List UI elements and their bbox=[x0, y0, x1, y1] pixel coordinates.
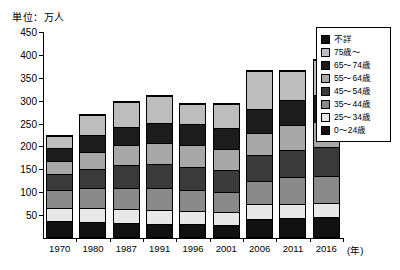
bar-segment bbox=[80, 209, 105, 224]
legend-item[interactable]: 55〜64歳 bbox=[321, 72, 387, 84]
bar-segment bbox=[214, 213, 239, 226]
stacked-bar-chart: 単位：万人 50100150200250300350400450 1970198… bbox=[0, 0, 400, 270]
x-tick bbox=[243, 238, 244, 242]
stacked-bar[interactable] bbox=[46, 135, 73, 238]
y-tick-label: 450 bbox=[20, 27, 37, 38]
x-axis-label: 2006 bbox=[243, 243, 276, 254]
stacked-bar[interactable] bbox=[213, 103, 240, 238]
legend-label: 0〜24歳 bbox=[334, 126, 366, 135]
bar-segment bbox=[147, 144, 172, 165]
y-tick-label: 300 bbox=[20, 95, 37, 106]
legend-swatch-icon bbox=[321, 87, 330, 96]
legend-label: 35〜44歳 bbox=[334, 100, 371, 109]
bar-segment bbox=[280, 126, 305, 151]
y-tick-label: 150 bbox=[20, 164, 37, 175]
bar-segment bbox=[280, 72, 305, 100]
bar-segment bbox=[114, 103, 139, 128]
bar-segment bbox=[147, 211, 172, 225]
bar-segment bbox=[214, 171, 239, 193]
bar-segment bbox=[47, 137, 72, 149]
legend-swatch-icon bbox=[321, 35, 330, 44]
legend-swatch-icon bbox=[321, 61, 330, 70]
bar-segment bbox=[280, 151, 305, 178]
legend-label: 25〜34歳 bbox=[334, 113, 371, 122]
x-tick bbox=[76, 238, 77, 242]
bar-segment bbox=[80, 189, 105, 208]
bar-column[interactable] bbox=[43, 32, 76, 238]
bar-column[interactable] bbox=[276, 32, 309, 238]
bar-segment bbox=[280, 219, 305, 237]
bar-segment bbox=[147, 124, 172, 144]
y-tick-label: 350 bbox=[20, 72, 37, 83]
legend-label: 不詳 bbox=[334, 35, 352, 44]
bar-segment bbox=[114, 166, 139, 189]
legend-item[interactable]: 45〜54歳 bbox=[321, 85, 387, 97]
legend-label: 45〜54歳 bbox=[334, 87, 371, 96]
bar-segment bbox=[180, 146, 205, 168]
x-axis-label: 1970 bbox=[43, 243, 76, 254]
x-tick bbox=[210, 238, 211, 242]
x-axis-label: 1991 bbox=[143, 243, 176, 254]
bar-segment bbox=[214, 129, 239, 150]
stacked-bar[interactable] bbox=[79, 114, 106, 238]
legend-label: 75歳〜 bbox=[334, 48, 361, 57]
x-tick bbox=[143, 238, 144, 242]
stacked-bar[interactable] bbox=[279, 70, 306, 238]
legend-item[interactable]: 0〜24歳 bbox=[321, 124, 387, 136]
y-tick-label: 400 bbox=[20, 49, 37, 60]
y-tick-label: 100 bbox=[20, 187, 37, 198]
bar-column[interactable] bbox=[210, 32, 243, 238]
legend-label: 65〜74歳 bbox=[334, 61, 371, 70]
unit-caption: 単位：万人 bbox=[12, 9, 65, 24]
bar-segment bbox=[80, 153, 105, 170]
bar-segment bbox=[80, 136, 105, 152]
bar-segment bbox=[214, 226, 239, 237]
bar-segment bbox=[114, 224, 139, 237]
x-tick bbox=[276, 238, 277, 242]
legend-item[interactable]: 75歳〜 bbox=[321, 46, 387, 58]
bar-segment bbox=[114, 210, 139, 224]
bar-column[interactable] bbox=[76, 32, 109, 238]
x-tick bbox=[343, 238, 344, 242]
bar-segment bbox=[47, 209, 72, 223]
x-axis-labels: 197019801987199119962001200620112016 bbox=[43, 243, 343, 254]
bar-segment bbox=[180, 225, 205, 237]
legend-item[interactable]: 35〜44歳 bbox=[321, 98, 387, 110]
bar-group bbox=[43, 32, 343, 238]
bar-column[interactable] bbox=[243, 32, 276, 238]
y-tick-label: 200 bbox=[20, 141, 37, 152]
bar-segment bbox=[247, 110, 272, 134]
bar-segment bbox=[180, 191, 205, 212]
bar-column[interactable] bbox=[176, 32, 209, 238]
bar-column[interactable] bbox=[110, 32, 143, 238]
stacked-bar[interactable] bbox=[146, 95, 173, 238]
chart-legend: 不詳75歳〜65〜74歳55〜64歳45〜54歳35〜44歳25〜34歳0〜24… bbox=[316, 27, 391, 142]
bar-segment bbox=[47, 162, 72, 176]
bar-segment bbox=[314, 204, 339, 218]
legend-item[interactable]: 不詳 bbox=[321, 33, 387, 45]
stacked-bar[interactable] bbox=[113, 101, 140, 238]
bar-segment bbox=[47, 149, 72, 162]
bar-segment bbox=[180, 125, 205, 146]
bar-segment bbox=[114, 128, 139, 146]
bar-segment bbox=[147, 165, 172, 189]
bar-segment bbox=[114, 146, 139, 166]
bar-column[interactable] bbox=[143, 32, 176, 238]
bar-segment bbox=[247, 134, 272, 157]
x-axis-unit-label: (年) bbox=[347, 243, 363, 257]
bar-segment bbox=[47, 175, 72, 191]
stacked-bar[interactable] bbox=[179, 103, 206, 238]
x-axis-label: 2001 bbox=[210, 243, 243, 254]
bar-segment bbox=[280, 178, 305, 205]
x-axis-label: 1987 bbox=[110, 243, 143, 254]
legend-item[interactable]: 65〜74歳 bbox=[321, 59, 387, 71]
bar-segment bbox=[280, 101, 305, 127]
bar-segment bbox=[80, 170, 105, 189]
bar-segment bbox=[214, 150, 239, 172]
x-tick bbox=[176, 238, 177, 242]
bar-segment bbox=[147, 189, 172, 211]
stacked-bar[interactable] bbox=[246, 70, 273, 238]
bar-segment bbox=[180, 212, 205, 225]
legend-item[interactable]: 25〜34歳 bbox=[321, 111, 387, 123]
legend-swatch-icon bbox=[321, 126, 330, 135]
